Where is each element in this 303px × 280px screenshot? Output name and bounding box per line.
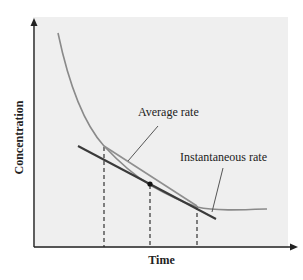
tangent-point <box>147 181 152 186</box>
x-axis-arrow-icon <box>290 244 298 251</box>
y-axis-title: Concentration <box>12 93 27 183</box>
instantaneous-rate-label: Instantaneous rate <box>180 150 267 165</box>
instantaneous-rate-leader <box>212 168 223 212</box>
x-axis-title: Time <box>0 253 303 268</box>
average-rate-leader <box>128 126 158 161</box>
average-rate-label: Average rate <box>138 105 199 120</box>
rate-diagram <box>0 0 303 280</box>
axes <box>31 18 299 251</box>
y-axis-arrow-icon <box>31 18 38 26</box>
